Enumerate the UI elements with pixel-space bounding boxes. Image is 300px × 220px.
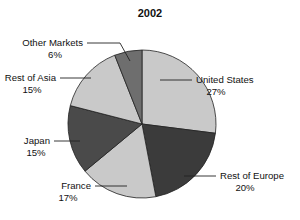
label-other-markets: Other Markets bbox=[22, 37, 83, 48]
value-other-markets: 6% bbox=[48, 49, 62, 60]
value-france: 17% bbox=[58, 192, 78, 203]
value-japan: 15% bbox=[26, 147, 46, 158]
value-rest-of-europe: 20% bbox=[235, 182, 255, 193]
label-rest-of-europe: Rest of Europe bbox=[220, 170, 284, 181]
pie-chart-figure: 2002 United States 27% Rest of Europe 20… bbox=[0, 0, 300, 220]
chart-title: 2002 bbox=[138, 7, 162, 19]
value-rest-of-asia: 15% bbox=[22, 84, 42, 95]
pie-chart-svg: 2002 United States 27% Rest of Europe 20… bbox=[0, 0, 300, 220]
value-united-states: 27% bbox=[206, 86, 226, 97]
label-france: France bbox=[61, 180, 91, 191]
label-japan: Japan bbox=[24, 135, 50, 146]
label-rest-of-asia: Rest of Asia bbox=[5, 72, 57, 83]
label-united-states: United States bbox=[196, 74, 254, 85]
